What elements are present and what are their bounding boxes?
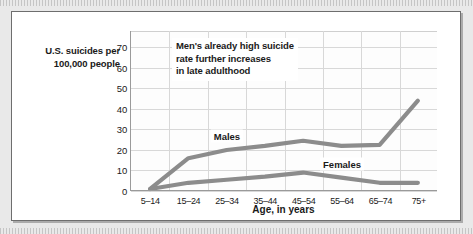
series-label-females: Females	[320, 157, 364, 170]
y-axis-tick-label: 40	[117, 103, 127, 114]
y-axis-tick-label: 30	[117, 124, 127, 135]
figure-frame: U.S. suicides per 100,000 people 0102030…	[11, 11, 461, 221]
y-axis-tick-label: 10	[117, 165, 127, 176]
y-axis-tick-label: 70	[117, 42, 127, 53]
series-label-males: Males	[211, 129, 243, 142]
y-axis-tick-label: 20	[117, 144, 127, 155]
line-chart: U.S. suicides per 100,000 people 0102030…	[12, 12, 460, 220]
y-axis-tick-label: 50	[117, 83, 127, 94]
series-line-females	[150, 173, 418, 189]
y-axis-title-line-2: 100,000 people	[16, 58, 120, 71]
y-axis-title: U.S. suicides per 100,000 people	[16, 45, 120, 70]
x-axis-title: Age, in years	[130, 204, 437, 215]
y-axis-tick-label: 0	[122, 186, 127, 197]
scan-speckle-band-top	[0, 0, 473, 6]
gridline-horizontal	[131, 191, 437, 192]
y-axis-title-line-1: U.S. suicides per	[16, 45, 120, 58]
annotation-men-rate-note: Men's already high suicide rate further …	[172, 38, 298, 81]
y-axis-tick-label: 60	[117, 62, 127, 73]
x-axis-line	[131, 190, 437, 191]
scan-speckle-band-bottom	[0, 228, 473, 234]
